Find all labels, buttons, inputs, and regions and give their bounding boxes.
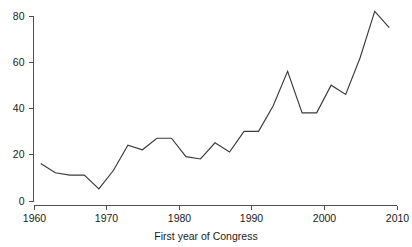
y-tick-label: 0 (19, 195, 25, 207)
x-tick-label: 1960 (23, 212, 47, 224)
data-series-line (41, 11, 389, 189)
x-tick-label: 1990 (240, 212, 264, 224)
x-axis-title: First year of Congress (154, 230, 257, 242)
y-tick-label: 20 (13, 148, 25, 160)
y-axis-ticks: 020406080 (13, 10, 34, 207)
x-tick-label: 1970 (95, 212, 119, 224)
x-axis-ticks: 196019701980199020002010 (23, 206, 410, 224)
chart-figure: 020406080 196019701980199020002010 First… (0, 0, 412, 247)
line-chart: 020406080 196019701980199020002010 First… (0, 0, 412, 247)
y-tick-label: 40 (13, 102, 25, 114)
y-tick-label: 60 (13, 56, 25, 68)
y-tick-label: 80 (13, 10, 25, 22)
x-tick-label: 2010 (386, 212, 410, 224)
x-tick-label: 1980 (168, 212, 192, 224)
x-tick-label: 2000 (313, 212, 337, 224)
